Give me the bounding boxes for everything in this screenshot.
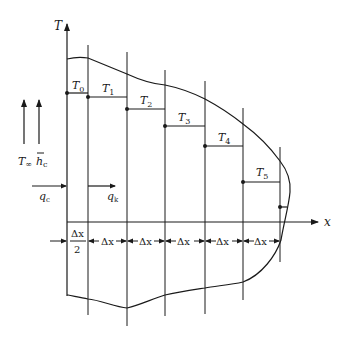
- node-label-t4: T4: [218, 131, 230, 146]
- dx-2: Δx: [139, 236, 152, 247]
- dx-5: Δx: [254, 236, 267, 247]
- fin-profile: [67, 57, 290, 308]
- node-label-t2: T2: [140, 94, 152, 109]
- node-label-t1: T1: [102, 82, 114, 97]
- temperature-steps: [65, 91, 287, 209]
- x-axis-label: x: [324, 215, 331, 229]
- heat-coeff-label: hc: [36, 155, 48, 169]
- t-axis-label: T: [54, 19, 63, 33]
- node-lines: [88, 45, 280, 326]
- dx-3: Δx: [177, 236, 190, 247]
- node-label-t3: T3: [178, 111, 190, 126]
- ambient-temp-label: T∞: [18, 155, 32, 169]
- dx-1: Δx: [101, 236, 114, 247]
- node-labels: T0 T1 T2 T3 T4 T5: [72, 79, 268, 181]
- node-label-t0: T0: [72, 79, 84, 94]
- fin-temperature-diagram: T x T0 T1 T2 T3 T4 T5: [0, 0, 359, 340]
- half-dx-num: Δx: [71, 228, 84, 239]
- node-label-t5: T5: [256, 166, 268, 181]
- conv-flux-label: qc: [39, 190, 50, 204]
- half-dx-den: 2: [74, 244, 80, 255]
- dx-4: Δx: [216, 236, 229, 247]
- cond-flux-label: qk: [107, 190, 119, 204]
